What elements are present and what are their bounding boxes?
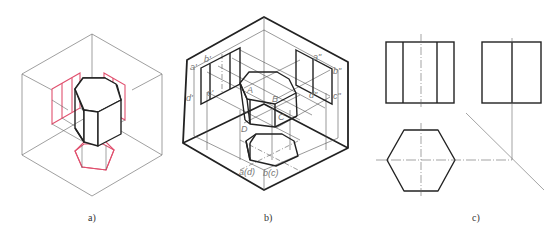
panel-c — [376, 34, 544, 196]
panel-b: a' b' d' c' a" b" d" c" A B C D a(d) b(c… — [183, 17, 348, 190]
label-A: A — [246, 85, 253, 95]
caption-a: a) — [88, 212, 96, 223]
label-b-c: b(c) — [263, 168, 279, 178]
label-a-prime: a' — [190, 62, 197, 72]
caption-c: c) — [472, 212, 480, 223]
label-d-prime: d' — [186, 93, 193, 103]
label-d-dprime: d" — [309, 90, 318, 100]
label-c-prime: c' — [207, 88, 214, 98]
caption-b: b) — [264, 212, 272, 223]
label-c-dprime: c" — [333, 91, 342, 101]
label-C: C — [278, 112, 285, 122]
label-b-dprime: b" — [333, 66, 342, 76]
label-a-dprime: a" — [313, 52, 322, 62]
label-b-prime: b' — [204, 54, 211, 64]
technical-drawing: a' b' d' c' a" b" d" c" A B C D a(d) b(c… — [0, 0, 560, 237]
label-D: D — [241, 124, 248, 134]
label-a-d: a(d) — [239, 167, 255, 177]
panel-a — [22, 34, 162, 196]
label-B: B — [272, 94, 278, 104]
